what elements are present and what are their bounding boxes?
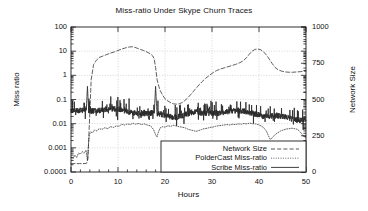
chart-figure: Miss-ratio Under Skype Churn Traces Miss… — [0, 0, 368, 211]
legend-label-2: Scribe Miss-ratio — [211, 163, 267, 172]
chart-legend: Network SizePolderCast Miss-ratioScribe … — [161, 141, 306, 172]
series-scribe-miss-ratio — [71, 86, 306, 129]
plot-area: Network SizePolderCast Miss-ratioScribe … — [0, 0, 368, 211]
legend-label-1: PolderCast Miss-ratio — [195, 153, 267, 162]
legend-label-0: Network Size — [223, 144, 267, 153]
